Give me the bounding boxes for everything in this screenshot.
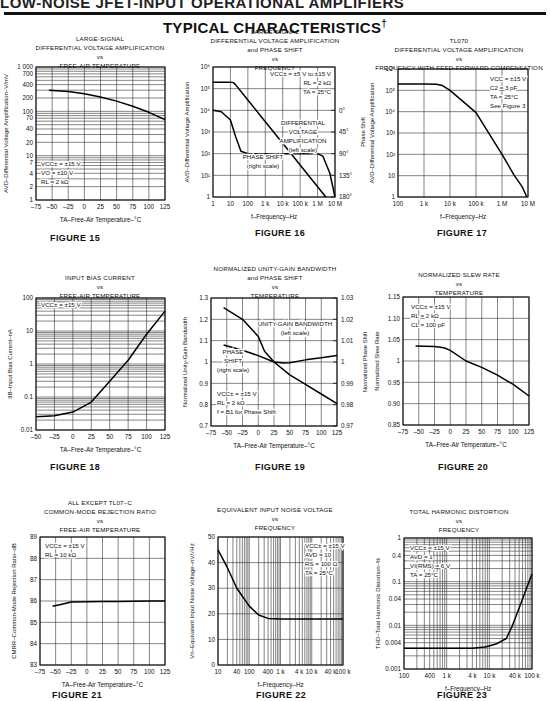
svg-text:0.004: 0.004 — [385, 639, 401, 646]
data-series-line — [404, 574, 532, 648]
svg-text:0.1: 0.1 — [392, 578, 401, 585]
chart-annotation: VI(RMS) = 6 V — [410, 562, 451, 569]
svg-text:0.001: 0.001 — [385, 665, 401, 672]
chart-annotation: AVD = 1 — [410, 553, 433, 560]
svg-text:100 k: 100 k — [524, 672, 540, 679]
svg-text:1: 1 — [397, 534, 401, 541]
svg-text:1 k: 1 k — [442, 672, 451, 679]
svg-text:100: 100 — [399, 672, 410, 679]
svg-text:40 k: 40 k — [509, 672, 522, 679]
svg-text:THD–Total Harmonic Distortion–: THD–Total Harmonic Distortion–% — [375, 557, 381, 649]
svg-text:400: 400 — [424, 672, 435, 679]
svg-text:0.04: 0.04 — [389, 595, 402, 602]
svg-text:0.4: 0.4 — [392, 552, 401, 559]
svg-text:10 k: 10 k — [483, 672, 496, 679]
plot-area: 1004001 k4 k10 k40 k100 k0.0010.0040.010… — [0, 0, 550, 701]
chart-annotation: TA = 25°C — [410, 571, 439, 578]
svg-text:4 k: 4 k — [468, 672, 477, 679]
svg-text:f–Frequency–Hz: f–Frequency–Hz — [445, 685, 491, 693]
svg-text:0.01: 0.01 — [389, 622, 402, 629]
chart-figure-23: TOTAL HARMONIC DISTORTION vs FREQUENCYFI… — [0, 0, 550, 701]
chart-annotation: VCC± = ±15 V — [410, 544, 451, 551]
